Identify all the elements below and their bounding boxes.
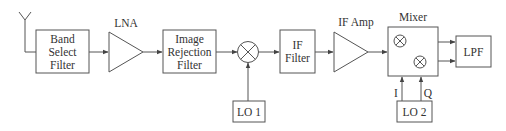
image-rejection-filter-block: Image Rejection Filter (163, 30, 216, 73)
i-signal-label: I (394, 87, 398, 99)
antenna-icon (19, 12, 36, 52)
if-amp-label: IF Amp (338, 16, 374, 29)
svg-text:Select: Select (48, 46, 77, 58)
iq-mixer-block: Mixer (388, 11, 438, 76)
lo2-label: LO 2 (403, 106, 427, 118)
band-select-filter-block: Band Select Filter (36, 30, 89, 73)
iff-label-2: Filter (285, 52, 310, 64)
lna-label: LNA (114, 17, 138, 29)
mixer-label: Mixer (399, 11, 427, 23)
svg-text:IF: IF (292, 39, 302, 51)
lpf-block: LPF (456, 36, 491, 67)
mixer-q-icon (414, 56, 426, 68)
lpf-label: LPF (464, 46, 484, 58)
q-signal-label: Q (424, 87, 433, 99)
band-select-label-1: Band (50, 33, 75, 45)
band-select-label-2: Select (48, 46, 77, 58)
lo1-label: LO 1 (237, 106, 261, 118)
if-amp-amplifier-icon: IF Amp (334, 16, 374, 72)
mixer-i-icon (394, 35, 406, 47)
svg-text:Filter: Filter (177, 59, 202, 71)
svg-text:Image: Image (175, 33, 204, 46)
irf-label-3: Filter (177, 59, 202, 71)
lo1-block: LO 1 (233, 101, 265, 122)
svg-text:Band: Band (50, 33, 75, 45)
rf-receiver-diagram: Band Select Filter LNA Image Rejection F… (0, 0, 506, 131)
svg-text:Filter: Filter (50, 59, 75, 71)
irf-label-2: Rejection (167, 46, 211, 59)
lna-amplifier-icon: LNA (109, 17, 143, 72)
irf-label-1: Image (175, 33, 204, 46)
if-filter-block: IF Filter (280, 30, 315, 73)
mixer-1-icon (238, 42, 259, 63)
svg-text:Rejection: Rejection (167, 46, 211, 59)
svg-text:Filter: Filter (285, 52, 310, 64)
iff-label-1: IF (292, 39, 302, 51)
band-select-label-3: Filter (50, 59, 75, 71)
lo2-block: LO 2 (397, 101, 432, 122)
